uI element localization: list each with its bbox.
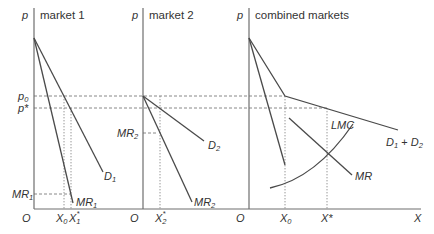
x1star-label: X1* xyxy=(68,209,81,226)
demand-curve-d1 xyxy=(34,38,103,172)
panel-title-3: combined markets xyxy=(255,9,349,21)
marginal-revenue-segment-1 xyxy=(249,38,285,165)
panel-title-1: market 1 xyxy=(40,9,85,21)
mr1-level-label: MR1 xyxy=(12,188,33,202)
origin-label-1: O xyxy=(22,212,31,224)
aggregate-demand-label: D1 + D2 xyxy=(386,136,424,150)
price-axis-label-2: p xyxy=(131,9,138,21)
marginal-revenue-curve-mr2 xyxy=(143,96,192,202)
mr2-level-label: MR2 xyxy=(117,127,139,141)
pstar-label: p* xyxy=(17,102,29,114)
panel-title-2: market 2 xyxy=(149,9,194,21)
d2-label: D2 xyxy=(208,139,221,153)
mr2-label: MR2 xyxy=(194,196,216,210)
d1-label: D1 xyxy=(104,170,116,184)
x2star-label: X2* xyxy=(154,209,167,226)
panel-market-2: p market 2 O MR2 D2 MR2 X2* xyxy=(117,8,249,226)
marginal-revenue-curve-mr1 xyxy=(34,38,73,203)
price-axis-label-1: p xyxy=(21,9,28,21)
panel-combined-markets: p combined markets O X LMC MR D1 + D2 X0… xyxy=(236,8,424,226)
demand-curve-d2 xyxy=(143,96,204,141)
lmc-label: LMC xyxy=(331,119,354,131)
third-degree-price-discrimination-diagram: p market 1 O p0 p* MR1 D1 MR1 X0 X1* p m… xyxy=(0,0,434,234)
xstar-label: X* xyxy=(320,212,333,224)
origin-label-2: O xyxy=(130,212,139,224)
mr1-label: MR1 xyxy=(76,196,97,210)
panel-market-1: p market 1 O p0 p* MR1 D1 MR1 X0 X1* xyxy=(12,8,327,226)
price-axis-label-3: p xyxy=(236,9,243,21)
mr-label: MR xyxy=(355,170,372,182)
x0-label-3: X0 xyxy=(279,212,292,226)
origin-label-3: O xyxy=(236,212,245,224)
x0-label-1: X0 xyxy=(55,212,68,226)
quantity-axis-label: X xyxy=(413,212,422,224)
